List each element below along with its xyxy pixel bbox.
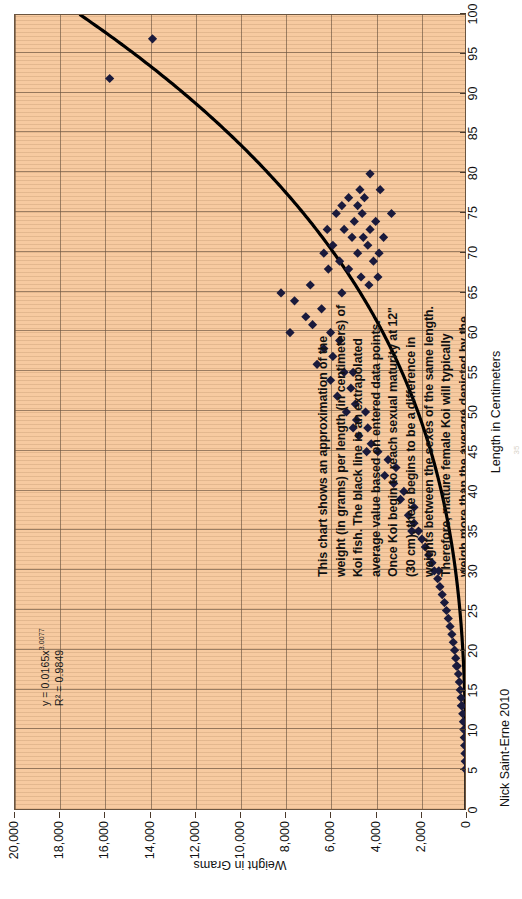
- data-point-marker: [450, 646, 459, 655]
- x-tick-label: 75: [466, 206, 480, 220]
- data-point-marker: [454, 669, 463, 678]
- annotation-line: Once Koi begin to reach sexual maturity …: [385, 147, 403, 577]
- y-tick-label: 4,000: [369, 821, 383, 852]
- annotation-line: Koi fish. The black line is an extrapola…: [350, 147, 368, 577]
- data-point-marker: [105, 74, 114, 83]
- y-axis-label: Weight in Grams: [120, 858, 360, 872]
- x-tick-label: 100: [466, 4, 480, 25]
- y-tick-mark: [104, 812, 105, 818]
- x-tick-label: 85: [466, 126, 480, 140]
- y-tick-mark: [466, 812, 467, 818]
- annotation-line: Therefore, mature female Koi will typica…: [438, 147, 456, 577]
- x-tick-label: 30: [466, 564, 480, 578]
- x-tick-label: 80: [466, 166, 480, 180]
- equation-text: y = 0.0165x: [39, 650, 51, 706]
- data-point-marker: [451, 654, 460, 663]
- data-point-marker: [440, 598, 449, 607]
- annotation-line: (30 cm), there begins to be a difference…: [403, 147, 421, 577]
- rotated-figure-wrapper: y = 0.0165x3.0077 R² = 0.9849 This chart…: [0, 0, 522, 899]
- data-point-marker: [306, 280, 315, 289]
- data-point-marker: [438, 590, 447, 599]
- data-point-marker: [455, 677, 464, 686]
- y-tick-mark: [59, 812, 60, 818]
- x-tick-label: 50: [466, 405, 480, 419]
- y-tick-mark: [285, 812, 286, 818]
- y-tick-label: 20,000: [7, 821, 21, 859]
- data-point-marker: [447, 630, 456, 639]
- x-tick-label: 15: [466, 684, 480, 698]
- y-tick-label: 2,000: [414, 821, 428, 852]
- y-tick-label: 16,000: [97, 821, 111, 859]
- y-tick-label: 8,000: [278, 821, 292, 852]
- plot-area: y = 0.0165x3.0077 R² = 0.9849 This chart…: [14, 14, 466, 810]
- data-point-marker: [444, 614, 453, 623]
- x-tick-label: 40: [466, 485, 480, 499]
- x-tick-label: 20: [466, 644, 480, 658]
- x-tick-label: 60: [466, 325, 480, 339]
- x-tick-label: 70: [466, 246, 480, 260]
- regression-equation: y = 0.0165x3.0077 R² = 0.9849: [37, 628, 66, 706]
- y-tick-label: 14,000: [143, 821, 157, 859]
- koi-weight-length-chart: y = 0.0165x3.0077 R² = 0.9849 This chart…: [0, 0, 522, 899]
- y-axis-ticks: 02,0004,0006,0008,00010,00012,00014,0001…: [14, 812, 466, 899]
- x-tick-label: 10: [466, 723, 480, 737]
- x-tick-label: 90: [466, 87, 480, 101]
- annotation-line: This chart shows an approximation of the: [315, 147, 333, 577]
- data-point-marker: [301, 312, 310, 321]
- annotation-line: average value based on entered data poin…: [368, 147, 386, 577]
- x-tick-label: 95: [466, 47, 480, 61]
- y-tick-label: 0: [459, 821, 473, 828]
- data-point-marker: [285, 328, 294, 337]
- y-tick-mark: [14, 812, 15, 818]
- y-tick-label: 18,000: [52, 821, 66, 859]
- annotation-line: weights between the sexes of the same le…: [421, 147, 439, 577]
- r-squared-text: R² = 0.9849: [52, 628, 66, 706]
- annotation-line: weight (in grams) per length (in centime…: [333, 147, 351, 577]
- y-tick-mark: [240, 812, 241, 818]
- data-point-marker: [290, 296, 299, 305]
- y-tick-label: 10,000: [233, 821, 247, 859]
- y-tick-mark: [195, 812, 196, 818]
- x-tick-label: 55: [466, 365, 480, 379]
- y-tick-label: 12,000: [188, 821, 202, 859]
- y-tick-mark: [330, 812, 331, 818]
- x-tick-label: 35: [466, 524, 480, 538]
- data-point-marker: [445, 622, 454, 631]
- y-tick-mark: [150, 812, 151, 818]
- x-tick-label: 65: [466, 286, 480, 300]
- y-tick-mark: [376, 812, 377, 818]
- x-tick-label: 25: [466, 604, 480, 618]
- equation-exponent: 3.0077: [38, 628, 45, 650]
- data-point-marker: [449, 638, 458, 647]
- data-point-marker: [276, 288, 285, 297]
- x-tick-label: 45: [466, 445, 480, 459]
- data-point-marker: [435, 582, 444, 591]
- y-tick-mark: [421, 812, 422, 818]
- x-tick-label: 5: [466, 767, 480, 774]
- page-number: 35: [512, 446, 521, 455]
- data-point-marker: [148, 34, 157, 43]
- data-point-marker: [460, 741, 466, 750]
- chart-annotation-text: This chart shows an approximation of the…: [315, 147, 466, 577]
- y-tick-label: 6,000: [323, 821, 337, 852]
- data-point-marker: [460, 733, 466, 742]
- data-point-marker: [442, 606, 451, 615]
- x-tick-label: 0: [466, 807, 480, 814]
- attribution-text: Nick Saint-Erne 2010: [498, 689, 512, 807]
- data-point-marker: [452, 661, 461, 670]
- scanned-page: y = 0.0165x3.0077 R² = 0.9849 This chart…: [0, 0, 522, 899]
